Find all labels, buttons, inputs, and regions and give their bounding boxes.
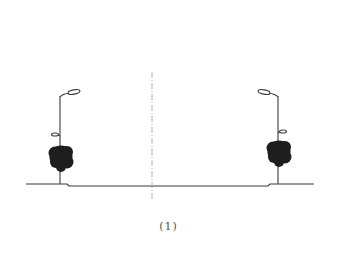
right-streetlamp (258, 89, 287, 184)
left-lower-lamp-head-icon (52, 133, 59, 136)
right-tree (267, 141, 292, 168)
right-upper-lamp-head-icon (258, 89, 271, 95)
ground-profile (26, 184, 314, 186)
left-tree (49, 146, 74, 173)
ground-line (26, 184, 314, 186)
right-lower-lamp-head-icon (280, 130, 287, 133)
left-streetlamp (52, 89, 81, 184)
street-cross-section-diagram (0, 0, 337, 255)
figure-caption: (1) (0, 220, 337, 233)
left-upper-lamp-head-icon (68, 89, 81, 95)
